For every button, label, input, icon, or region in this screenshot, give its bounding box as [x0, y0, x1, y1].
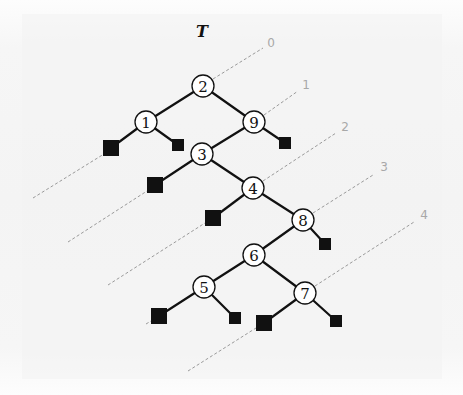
tree-node-6: 6 [243, 244, 265, 266]
node-key: 4 [248, 180, 258, 198]
level-label-2: 2 [341, 120, 349, 134]
leaf-square-icon [330, 315, 342, 327]
leaf-square-icon [319, 238, 331, 250]
leaf-square-icon [229, 312, 241, 324]
level-guide-line-1 [264, 91, 298, 115]
leaf-square-icon [256, 315, 272, 331]
node-key: 7 [300, 285, 310, 303]
level-label-3: 3 [380, 160, 388, 174]
leaf-square-icon [279, 137, 291, 149]
level-guide-line-0 [213, 48, 263, 79]
level-label-4: 4 [420, 208, 428, 222]
tree-node-7: 7 [294, 282, 316, 304]
node-key: 3 [197, 146, 207, 164]
tree-canvas: 01234 219348657 T [0, 0, 463, 395]
node-key: 2 [198, 78, 208, 96]
tree-node-3: 3 [191, 143, 213, 165]
bst-diagram: 01234 219348657 T [0, 0, 463, 395]
node-key: 9 [249, 114, 259, 132]
leaf-square-icon [151, 308, 167, 324]
node-key: 5 [199, 279, 209, 297]
level-guide-line-3 [108, 223, 205, 285]
level-label-0: 0 [267, 36, 275, 50]
leaf-square-icon [205, 210, 221, 226]
tree-node-9: 9 [243, 111, 265, 133]
level-guide-line-4 [188, 328, 256, 371]
tree-node-8: 8 [292, 209, 314, 231]
level-guide-line-2 [263, 133, 336, 181]
node-key: 6 [249, 247, 259, 265]
level-guide-line-2 [68, 191, 147, 242]
leaf-square-icon [172, 139, 184, 151]
level-label-1: 1 [302, 78, 310, 92]
tree-node-2: 2 [192, 75, 214, 97]
node-key: 1 [141, 114, 151, 132]
node-key: 8 [298, 212, 308, 230]
level-guide-line-1 [33, 154, 104, 198]
tree-node-5: 5 [193, 276, 215, 298]
tree-node-4: 4 [242, 177, 264, 199]
level-guide-line-4 [146, 321, 151, 324]
tree-node-1: 1 [135, 111, 157, 133]
level-guide-line-3 [313, 175, 373, 213]
leaf-square-icon [147, 177, 163, 193]
leaf-square-icon [103, 140, 119, 156]
root-label-T: T [196, 22, 209, 41]
level-guide-line-4 [315, 222, 414, 286]
